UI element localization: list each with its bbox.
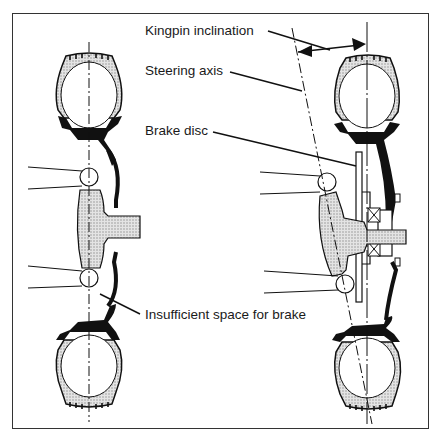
left-wheel — [28, 42, 140, 422]
label-brake-disc: Brake disc — [145, 124, 208, 138]
kingpin-angle-arrow — [298, 38, 366, 57]
right-lower-ball-joint — [336, 275, 354, 293]
label-kingpin-inclination: Kingpin inclination — [145, 24, 254, 38]
kingpin-leader — [268, 31, 330, 50]
label-insufficient-space: Insufficient space for brake — [145, 308, 306, 322]
left-knuckle — [77, 190, 140, 268]
brake-disc-leader — [213, 132, 356, 166]
steering-axis-leader — [230, 72, 302, 91]
label-steering-axis: Steering axis — [145, 64, 223, 78]
right-wheel — [260, 22, 406, 424]
right-upper-ball-joint — [318, 173, 336, 191]
